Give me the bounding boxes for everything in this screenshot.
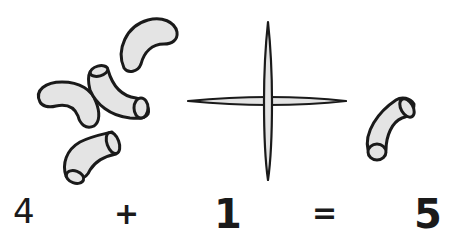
- macaroni-icon: [367, 96, 417, 160]
- macaroni-icon: [64, 131, 122, 186]
- equation-left-operand: 4: [13, 194, 35, 228]
- equation-plus-sign: +: [114, 199, 139, 229]
- equation-result: 5: [414, 194, 442, 234]
- plus-sign-icon: [188, 22, 346, 180]
- equation-equals-sign: =: [312, 198, 337, 228]
- macaroni-icon: [121, 19, 177, 72]
- equation-right-operand: 1: [214, 194, 242, 234]
- math-illustration: 4 + 1 = 5: [0, 0, 453, 243]
